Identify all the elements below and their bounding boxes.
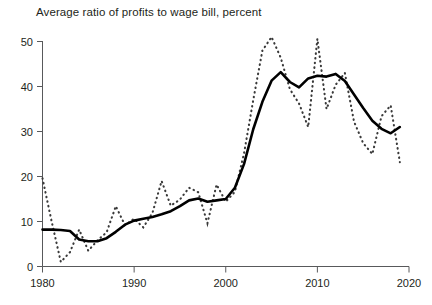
x-tick-label: 2010 (305, 277, 329, 289)
y-tick-label: 50 (21, 36, 33, 48)
y-tick-label: 40 (21, 81, 33, 93)
y-axis-tick-labels: 01020304050 (21, 36, 33, 273)
x-tick-label: 2020 (397, 277, 421, 289)
y-tick-label: 10 (21, 216, 33, 228)
plot-area: 01020304050 19801990200020102020 (0, 0, 432, 305)
x-tick-label: 1990 (122, 277, 146, 289)
x-tick-label: 2000 (214, 277, 238, 289)
smoothed-trend-line (43, 72, 400, 241)
x-axis-tick-marks (43, 267, 410, 273)
y-tick-label: 20 (21, 171, 33, 183)
x-axis-tick-labels: 19801990200020102020 (30, 277, 421, 289)
y-axis-tick-marks (37, 42, 43, 267)
x-tick-label: 1980 (30, 277, 54, 289)
chart-figure: Average ratio of profits to wage bill, p… (0, 0, 432, 305)
y-tick-label: 0 (27, 261, 33, 273)
annual-series-line (43, 37, 400, 262)
y-tick-label: 30 (21, 126, 33, 138)
